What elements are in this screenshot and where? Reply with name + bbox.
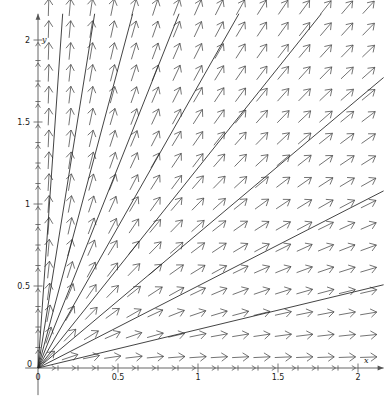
x-tick-label: 1	[195, 373, 200, 382]
y-tick-label: 0.5	[17, 282, 30, 291]
x-axis-label: x	[364, 356, 369, 365]
y-tick-label: 1	[25, 200, 30, 209]
plot-canvas: 00.511.520.511.520xy	[0, 0, 390, 404]
plot-background	[0, 0, 390, 404]
direction-field-plot: 00.511.520.511.520xy	[0, 0, 390, 404]
x-tick-label: 0.5	[112, 373, 125, 382]
x-tick-label: 2	[355, 373, 360, 382]
y-tick-label: 1.5	[17, 118, 30, 127]
x-tick-label: 1.5	[272, 373, 285, 382]
x-tick-label: 0	[35, 373, 40, 382]
y-axis-label: y	[41, 35, 47, 44]
y-tick-label: 2	[25, 36, 30, 45]
origin-label: 0	[27, 360, 32, 369]
